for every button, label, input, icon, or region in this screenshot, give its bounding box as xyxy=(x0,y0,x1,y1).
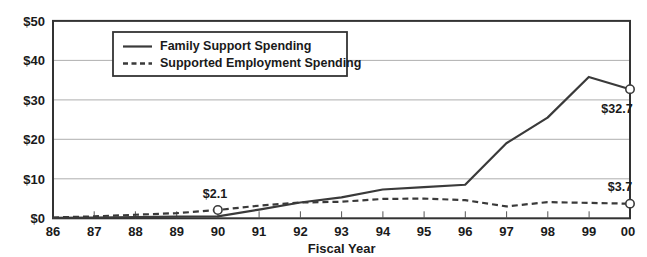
data-label-2-1: $2.1 xyxy=(203,187,227,201)
xtick-label-95: 95 xyxy=(417,224,431,239)
xtick-label-98: 98 xyxy=(541,224,555,239)
data-point-marker-32-7 xyxy=(626,85,634,93)
xtick-label-96: 96 xyxy=(458,224,472,239)
ytick-label-40: $40 xyxy=(23,53,45,68)
ytick-label-30: $30 xyxy=(23,93,45,108)
data-point-marker-2-1 xyxy=(214,206,222,214)
x-axis-labels: 86 87 88 89 90 91 92 93 94 95 96 97 98 9… xyxy=(46,224,635,239)
xtick-label-94: 94 xyxy=(376,224,391,239)
xtick-label-97: 97 xyxy=(499,224,513,239)
y-axis-labels: $50 $40 $30 $20 $10 $0 xyxy=(23,14,45,226)
xtick-label-00: 00 xyxy=(621,224,635,239)
xtick-label-88: 88 xyxy=(128,224,142,239)
ytick-label-10: $10 xyxy=(23,172,45,187)
legend-label-supported-employment-spending: Supported Employment Spending xyxy=(160,56,361,70)
xtick-label-89: 89 xyxy=(169,224,183,239)
xtick-label-93: 93 xyxy=(334,224,348,239)
annotation-markers xyxy=(214,85,635,214)
series-line-family-support-spending xyxy=(53,77,630,218)
data-point-marker-3-7 xyxy=(626,199,634,207)
xtick-label-90: 90 xyxy=(211,224,225,239)
xtick-label-91: 91 xyxy=(252,224,266,239)
ytick-label-50: $50 xyxy=(23,14,45,29)
xtick-label-87: 87 xyxy=(87,224,101,239)
line-chart: $50 $40 $30 $20 $10 $0 86 87 xyxy=(0,0,647,257)
annotation-labels: $2.1 $32.7 $3.7 xyxy=(203,102,633,202)
data-label-3-7: $3.7 xyxy=(608,180,632,194)
legend-label-family-support-spending: Family Support Spending xyxy=(160,39,311,53)
xtick-label-99: 99 xyxy=(582,224,596,239)
xtick-label-92: 92 xyxy=(293,224,307,239)
legend: Family Support Spending Supported Employ… xyxy=(113,32,361,76)
ytick-label-0: $0 xyxy=(31,211,45,226)
ytick-label-20: $20 xyxy=(23,132,45,147)
xtick-label-86: 86 xyxy=(46,224,60,239)
data-label-32-7: $32.7 xyxy=(601,102,632,116)
chart-canvas: $50 $40 $30 $20 $10 $0 86 87 xyxy=(0,0,647,257)
x-axis-title: Fiscal Year xyxy=(308,241,376,256)
